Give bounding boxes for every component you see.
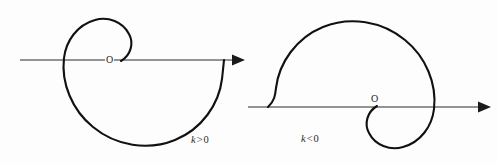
left-panel-group (20, 19, 245, 146)
left-spiral-curve (64, 19, 224, 146)
right-axis-arrow-icon (478, 102, 491, 113)
right-panel-group (248, 21, 491, 148)
left-caption-variable: k (191, 134, 196, 145)
right-caption-k-negative: k<0 (301, 133, 319, 144)
left-caption-operator: > (196, 134, 204, 145)
right-origin-label: O (370, 94, 379, 104)
left-origin-label: O (105, 55, 114, 65)
left-caption-value: 0 (204, 134, 209, 145)
right-caption-operator: < (306, 133, 314, 144)
left-axis-arrow-icon (232, 55, 245, 66)
right-caption-variable: k (301, 133, 306, 144)
spiral-figure-container: O O k>0 k<0 (0, 0, 498, 163)
spiral-figure-svg (0, 0, 498, 163)
right-caption-value: 0 (314, 133, 319, 144)
right-spiral-curve (268, 21, 434, 148)
left-caption-k-positive: k>0 (191, 134, 209, 145)
